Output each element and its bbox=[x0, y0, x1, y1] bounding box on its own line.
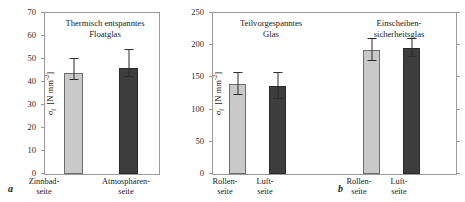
y-tick-a-70: 70 bbox=[41, 12, 45, 13]
y-axis-label-a: σf [N mm-2] bbox=[44, 64, 57, 124]
bar-zinnbadseite bbox=[64, 73, 83, 174]
y-tick-right-b-100 bbox=[456, 109, 460, 110]
error-bar-cap-bottom bbox=[124, 76, 133, 77]
y-tick-right-b-50 bbox=[456, 141, 460, 142]
bar-fill bbox=[403, 48, 420, 174]
y-tick-a-40: 40 bbox=[41, 81, 45, 82]
y-tick-a-0: 0 bbox=[41, 173, 45, 174]
y-tick-a-60: 60 bbox=[41, 35, 45, 36]
error-bar-line bbox=[371, 39, 372, 61]
y-tick-b-200: 200 bbox=[209, 44, 213, 45]
figure-bar-charts: σf [N mm-2] 0 10 20 30 40 50 60 70 Therm… bbox=[0, 0, 465, 202]
bar-esg-luftseite bbox=[403, 48, 420, 174]
panel-letter-a: a bbox=[8, 183, 13, 194]
chart-panel-a: σf [N mm-2] 0 10 20 30 40 50 60 70 Therm… bbox=[0, 0, 168, 202]
x-label-zinnbadseite: Zinnbad- seite bbox=[16, 177, 72, 196]
y-tick-right-b-150 bbox=[456, 76, 460, 77]
plot-area-a: σf [N mm-2] 0 10 20 30 40 50 60 70 Therm… bbox=[44, 12, 160, 175]
group-title-teilvorgespanntes-glas: Teilvorgespanntes Glas bbox=[219, 18, 323, 39]
panel-letter-b: b bbox=[338, 183, 343, 194]
bar-fill bbox=[229, 84, 246, 174]
error-bar-cap-top bbox=[367, 38, 376, 39]
error-bar-cap-top bbox=[407, 38, 416, 39]
error-bar-cap-top bbox=[273, 72, 282, 73]
y-tick-right-b-200 bbox=[456, 44, 460, 45]
y-tick-right-b-250 bbox=[456, 12, 460, 13]
plot-area-b: σf [N mm-2] 0 50 100 150 200 250 Teilvor… bbox=[212, 12, 457, 175]
error-bar-cap-top bbox=[233, 72, 242, 73]
error-bar-cap-top bbox=[124, 49, 133, 50]
error-bar-cap-bottom bbox=[273, 98, 282, 99]
bar-esg-rollenseite bbox=[363, 50, 380, 174]
error-bar-line bbox=[128, 50, 129, 77]
bar-atmosphaerenseite bbox=[119, 68, 138, 174]
y-tick-b-150: 150 bbox=[209, 76, 213, 77]
bar-fill bbox=[269, 86, 286, 174]
error-bar-cap-bottom bbox=[367, 60, 376, 61]
y-tick-a-20: 20 bbox=[41, 127, 45, 128]
group-title-einscheibensicherheitsglas: Einscheiben- sicherheitsglas bbox=[349, 18, 449, 39]
x-label-tvg-rollenseite: Rollen- seite bbox=[202, 177, 248, 196]
y-tick-b-0: 0 bbox=[209, 173, 213, 174]
y-tick-a-10: 10 bbox=[41, 150, 45, 151]
y-axis-label-b: σf [N mm-2] bbox=[212, 64, 225, 124]
error-bar-cap-bottom bbox=[69, 79, 78, 80]
bar-fill bbox=[64, 73, 83, 174]
error-bar-cap-top bbox=[69, 58, 78, 59]
x-label-esg-luftseite: Luft- seite bbox=[378, 177, 420, 196]
error-bar-line bbox=[277, 73, 278, 99]
error-bar-line bbox=[237, 73, 238, 95]
y-tick-a-30: 30 bbox=[41, 104, 45, 105]
bar-fill bbox=[119, 68, 138, 174]
error-bar-line bbox=[411, 39, 412, 57]
y-tick-right-b-0 bbox=[456, 173, 460, 174]
y-tick-b-250: 250 bbox=[209, 12, 213, 13]
bar-fill bbox=[363, 50, 380, 174]
y-tick-b-50: 50 bbox=[209, 141, 213, 142]
y-tick-a-50: 50 bbox=[41, 58, 45, 59]
bar-tvg-luftseite bbox=[269, 86, 286, 174]
bar-tvg-rollenseite bbox=[229, 84, 246, 174]
chart-panel-b: σf [N mm-2] 0 50 100 150 200 250 Teilvor… bbox=[168, 0, 465, 202]
x-label-atmosphaerenseite: Atmosphären- seite bbox=[90, 177, 162, 196]
chart-title-a: Thermisch entspanntes Floatglas bbox=[53, 18, 157, 39]
error-bar-cap-bottom bbox=[407, 56, 416, 57]
error-bar-cap-bottom bbox=[233, 94, 242, 95]
x-label-tvg-luftseite: Luft- seite bbox=[244, 177, 286, 196]
error-bar-line bbox=[73, 59, 74, 80]
y-tick-b-100: 100 bbox=[209, 109, 213, 110]
